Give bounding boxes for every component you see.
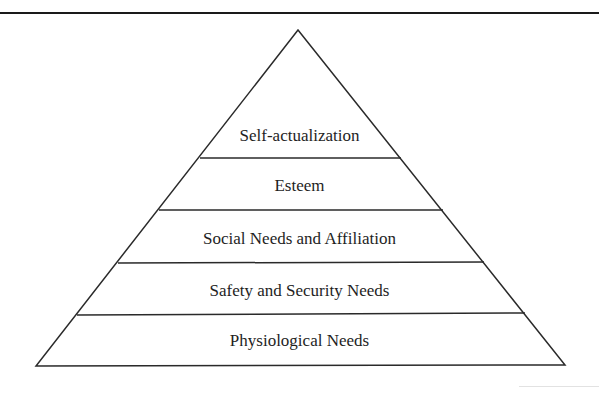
- tier-label-self-actualization: Self-actualization: [0, 126, 599, 146]
- tier-label-physiological-needs: Physiological Needs: [0, 331, 599, 351]
- tier-label-social-needs: Social Needs and Affiliation: [0, 229, 599, 249]
- tier-label-esteem: Esteem: [0, 176, 599, 196]
- tier-divider-3: [118, 262, 484, 263]
- bottom-rule-divider: [519, 386, 599, 387]
- pyramid-outline: [36, 30, 565, 366]
- tier-label-safety-needs: Safety and Security Needs: [0, 281, 599, 301]
